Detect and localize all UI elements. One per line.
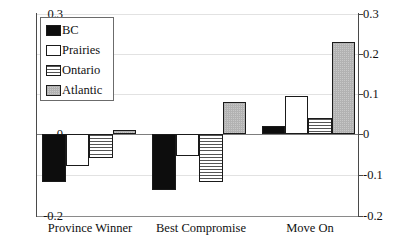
bar-move-on-ontario xyxy=(308,118,331,134)
y-tick-label-right-2: 0.1 xyxy=(363,88,379,101)
gridline-0.3 xyxy=(37,14,359,15)
legend-swatch-prairies-icon xyxy=(46,45,61,56)
x-category-label-1: Best Compromise xyxy=(140,222,262,235)
y-axis-left xyxy=(36,13,37,217)
bar-best-compromise-ontario xyxy=(199,134,223,182)
legend-item-prairies: Prairies xyxy=(46,42,100,58)
bar-province-winner-atlantic xyxy=(113,130,137,134)
y-tick-label-right-1: 0.2 xyxy=(363,48,379,61)
y-tick-label-right-5: -0.2 xyxy=(363,210,383,223)
legend: BC Prairies Ontario Atlantic xyxy=(40,17,114,101)
gridline--0.1 xyxy=(37,175,359,176)
legend-swatch-ontario-icon xyxy=(46,65,61,76)
bar-best-compromise-prairies xyxy=(176,134,200,156)
bar-province-winner-bc xyxy=(42,134,66,182)
legend-item-atlantic: Atlantic xyxy=(46,82,102,98)
legend-item-bc: BC xyxy=(46,22,79,38)
x-category-label-2: Move On xyxy=(262,222,358,235)
bar-province-winner-ontario xyxy=(89,134,113,158)
bar-chart: 0.3 0.2 0.1 0 -0.1 -0.2 0.3 0.2 0.1 0 -0… xyxy=(0,0,400,244)
bar-best-compromise-bc xyxy=(152,134,176,190)
legend-label-atlantic: Atlantic xyxy=(62,84,102,97)
legend-label-ontario: Ontario xyxy=(62,64,100,77)
legend-swatch-bc-icon xyxy=(46,25,61,36)
legend-item-ontario: Ontario xyxy=(46,62,100,78)
bar-move-on-prairies xyxy=(285,96,308,134)
x-category-label-0: Province Winner xyxy=(30,222,150,235)
y-tick-label-right-4: -0.1 xyxy=(363,169,383,182)
y-axis-right xyxy=(358,13,359,217)
bar-move-on-atlantic xyxy=(332,42,355,134)
legend-label-bc: BC xyxy=(62,24,79,37)
bar-province-winner-prairies xyxy=(66,134,90,166)
bar-move-on-bc xyxy=(262,126,285,134)
legend-swatch-atlantic-icon xyxy=(46,85,61,96)
y-tick-label-right-0: 0.3 xyxy=(363,8,379,21)
y-tick-label-right-3: 0 xyxy=(363,128,369,141)
legend-label-prairies: Prairies xyxy=(62,44,100,57)
baseline--0.2 xyxy=(37,216,359,217)
bar-best-compromise-atlantic xyxy=(223,102,247,134)
